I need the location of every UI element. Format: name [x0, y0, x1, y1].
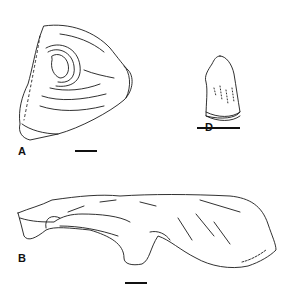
figure-illustration: [0, 0, 301, 284]
scale-bar-d: [197, 127, 240, 129]
scale-bar-a: [75, 150, 97, 152]
specimen-b-drawing: [18, 195, 276, 268]
panel-label-b: B: [18, 253, 26, 264]
specimen-a-drawing: [19, 25, 132, 140]
specimen-d-drawing: [205, 56, 240, 121]
panel-label-a: A: [18, 146, 26, 157]
